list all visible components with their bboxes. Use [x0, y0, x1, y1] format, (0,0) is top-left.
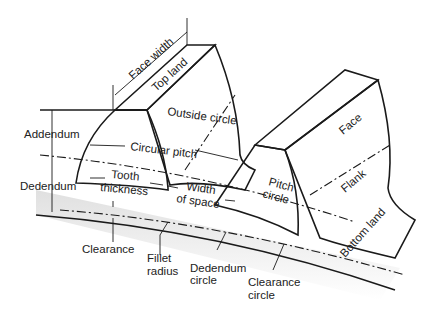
- label-clearance: Clearance: [82, 243, 134, 255]
- label-fillet-radius-1: Fillet: [147, 252, 172, 264]
- label-clearance-circle-1: Clearance: [248, 276, 300, 288]
- label-addendum: Addendum: [24, 128, 80, 140]
- label-tooth-thickness-2: thickness: [100, 181, 149, 197]
- label-tooth-thickness-1: Tooth: [111, 168, 140, 182]
- gear-tooth-diagram: Face width Top land Outside circle Adden…: [0, 0, 430, 318]
- label-dedendum-circle-1: Dedendum: [190, 262, 246, 274]
- label-fillet-radius-2: radius: [147, 265, 179, 277]
- label-clearance-circle-2: circle: [248, 289, 275, 301]
- label-face: Face: [337, 111, 364, 137]
- label-bottom-land: Bottom land: [338, 206, 388, 260]
- label-flank: Flank: [339, 167, 368, 194]
- label-dedendum-circle-2: circle: [190, 274, 217, 286]
- label-dedendum: Dedendum: [20, 180, 76, 192]
- label-outside-circle: Outside circle: [167, 105, 238, 127]
